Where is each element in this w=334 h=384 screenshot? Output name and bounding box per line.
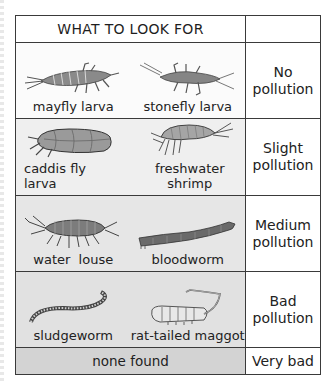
pollution-level-line2: pollution (246, 81, 320, 98)
creature-freshwater-shrimp: freshwater shrimp (135, 119, 246, 195)
creature-caddis-fly-larva: caddis fly larva (16, 119, 135, 195)
mayfly-larva-icon (23, 61, 123, 97)
pollution-level-line2: pollution (246, 157, 320, 174)
header-row: WHAT TO LOOK FOR (16, 16, 321, 43)
stonefly-larva-icon (138, 61, 238, 97)
creature-label-line1: caddis fly (24, 161, 86, 176)
pollution-level-line2: pollution (246, 234, 320, 251)
creature-label: water louse (33, 252, 113, 267)
creature-bloodworm: bloodworm (131, 196, 246, 271)
creature-stonefly-larva: stonefly larva (131, 43, 246, 118)
pollution-level-cell: No pollution (246, 43, 321, 119)
creature-label: stonefly larva (143, 99, 232, 114)
creatures-cell: caddis fly larva freshwater shrimp (16, 119, 246, 196)
creatures-cell: mayfly larva stonefly larva (16, 43, 246, 119)
header-title: WHAT TO LOOK FOR (16, 16, 246, 43)
pollution-level-cell: Slight pollution (246, 119, 321, 196)
pollution-level-line1: No (246, 64, 320, 81)
table-row-no-pollution: mayfly larva stonefly larva No pollution (16, 43, 321, 119)
creature-sludgeworm: sludgeworm (16, 272, 131, 347)
pollution-indicator-table: WHAT TO LOOK FOR mayfly (15, 15, 321, 375)
bloodworm-icon (133, 214, 243, 250)
pollution-level-cell: Medium pollution (246, 196, 321, 272)
creatures-cell: water louse bloodworm (16, 196, 246, 272)
table-row-bad-pollution: sludgeworm rat-tailed maggot Bad polluti… (16, 272, 321, 348)
page-edge-texture (0, 0, 4, 384)
creature-label: rat-tailed maggot (131, 328, 245, 343)
creature-label: bloodworm (152, 252, 224, 267)
table-row-very-bad: none found Very bad (16, 348, 321, 375)
pollution-level-cell: Bad pollution (246, 272, 321, 348)
water-louse-icon (23, 214, 123, 250)
creature-rat-tailed-maggot: rat-tailed maggot (131, 272, 246, 347)
caddis-fly-larva-icon (24, 125, 119, 159)
sludgeworm-icon (23, 288, 123, 326)
pollution-level-line1: Bad (246, 293, 320, 310)
table-row-slight-pollution: caddis fly larva freshwater shrimp (16, 119, 321, 196)
header-right-empty (246, 16, 321, 43)
freshwater-shrimp-icon (145, 119, 235, 159)
none-found-cell: none found (16, 348, 246, 375)
pollution-level-cell: Very bad (246, 348, 321, 375)
table-row-medium-pollution: water louse bloodworm Medium pollution (16, 196, 321, 272)
creature-label: freshwater shrimp (135, 161, 246, 191)
creature-mayfly-larva: mayfly larva (16, 43, 131, 118)
rat-tailed-maggot-icon (138, 288, 238, 326)
creature-label: mayfly larva (33, 99, 114, 114)
creature-label-line2: larva (24, 176, 57, 191)
creature-water-louse: water louse (16, 196, 131, 271)
pollution-level-line2: pollution (246, 310, 320, 327)
pollution-level-line1: Slight (246, 140, 320, 157)
pollution-level-line1: Medium (246, 217, 320, 234)
creature-label: sludgeworm (34, 328, 114, 343)
creatures-cell: sludgeworm rat-tailed maggot (16, 272, 246, 348)
